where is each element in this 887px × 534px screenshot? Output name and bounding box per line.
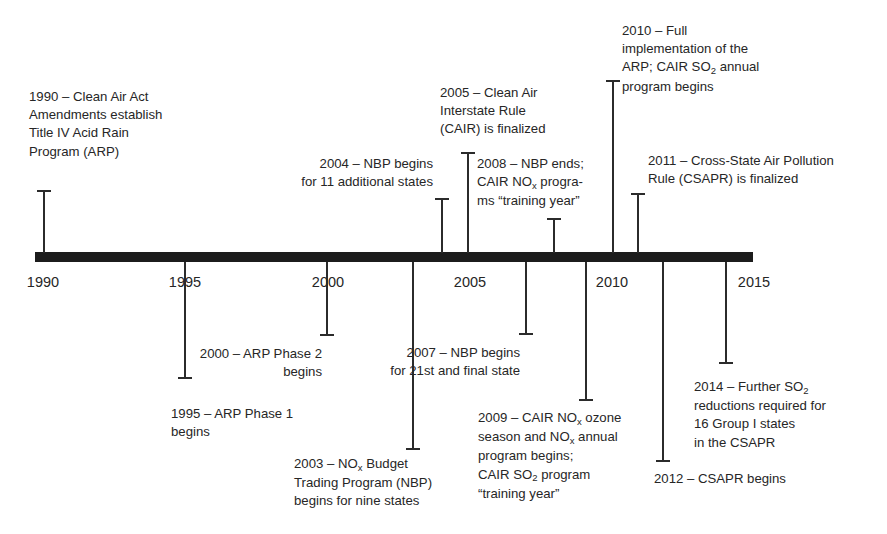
subscript-x: x (577, 416, 582, 427)
leader-line-2007 (525, 262, 527, 335)
timeline-axis-bar (35, 252, 753, 262)
leader-cap-2012 (656, 460, 670, 462)
event-label-2004: 2004 – NBP begins for 11 additional stat… (285, 155, 433, 191)
subscript-x: x (358, 462, 363, 473)
axis-tick-label-2005: 2005 (454, 274, 486, 291)
leader-line-2005 (467, 152, 469, 253)
event-label-2007: 2007 – NBP begins for 21st and final sta… (360, 344, 520, 380)
leader-cap-2010 (606, 80, 620, 82)
leader-cap-2000 (320, 334, 334, 336)
leader-cap-2007 (519, 333, 533, 335)
leader-cap-1990 (37, 190, 51, 192)
leader-line-1990 (43, 190, 45, 253)
event-label-1990: 1990 – Clean Air Act Amendments establis… (29, 88, 244, 161)
subscript-x-2: x (570, 435, 575, 446)
leader-cap-2008 (547, 218, 561, 220)
event-label-2014: 2014 – Further SO2 reductions required f… (694, 378, 884, 452)
leader-line-2012 (662, 262, 664, 462)
axis-tick-label-2015: 2015 (738, 274, 770, 291)
subscript-x: x (532, 180, 537, 191)
leader-cap-2014 (719, 362, 733, 364)
leader-line-2008 (553, 218, 555, 253)
subscript-2: 2 (532, 472, 537, 483)
leader-cap-2004 (435, 198, 449, 200)
leader-line-2014 (725, 262, 727, 364)
event-label-2008: 2008 – NBP ends; CAIR NOx progra- ms “tr… (477, 155, 607, 211)
timeline-diagram: 1990 1995 2000 2005 2010 2015 1990 – Cle… (0, 0, 887, 534)
event-label-2009: 2009 – CAIR NOx ozone season and NOx ann… (478, 409, 668, 503)
event-label-2012: 2012 – CSAPR begins (654, 470, 869, 488)
leader-cap-2005 (461, 152, 475, 154)
event-label-2000: 2000 – ARP Phase 2 begins (150, 345, 322, 381)
leader-cap-2003 (406, 448, 420, 450)
event-label-2010: 2010 – Full implementation of the ARP; C… (622, 22, 807, 96)
leader-cap-2011 (631, 193, 645, 195)
leader-cap-2009 (579, 399, 593, 401)
subscript-2: 2 (711, 65, 716, 76)
leader-line-2009 (585, 262, 587, 401)
leader-line-2004 (441, 198, 443, 253)
axis-tick-label-2010: 2010 (596, 274, 628, 291)
event-label-1995: 1995 – ARP Phase 1 begins (171, 405, 361, 441)
leader-line-2000 (326, 262, 328, 336)
event-label-2003: 2003 – NOx Budget Trading Program (NBP) … (294, 455, 499, 511)
subscript-2: 2 (803, 385, 808, 396)
leader-line-2010 (612, 80, 614, 253)
leader-line-2011 (637, 193, 639, 253)
axis-tick-label-2000: 2000 (312, 274, 344, 291)
event-label-2011: 2011 – Cross-State Air Pollution Rule (C… (648, 152, 883, 188)
axis-tick-label-1990: 1990 (27, 274, 59, 291)
event-label-2005: 2005 – Clean Air Interstate Rule (CAIR) … (440, 84, 575, 139)
